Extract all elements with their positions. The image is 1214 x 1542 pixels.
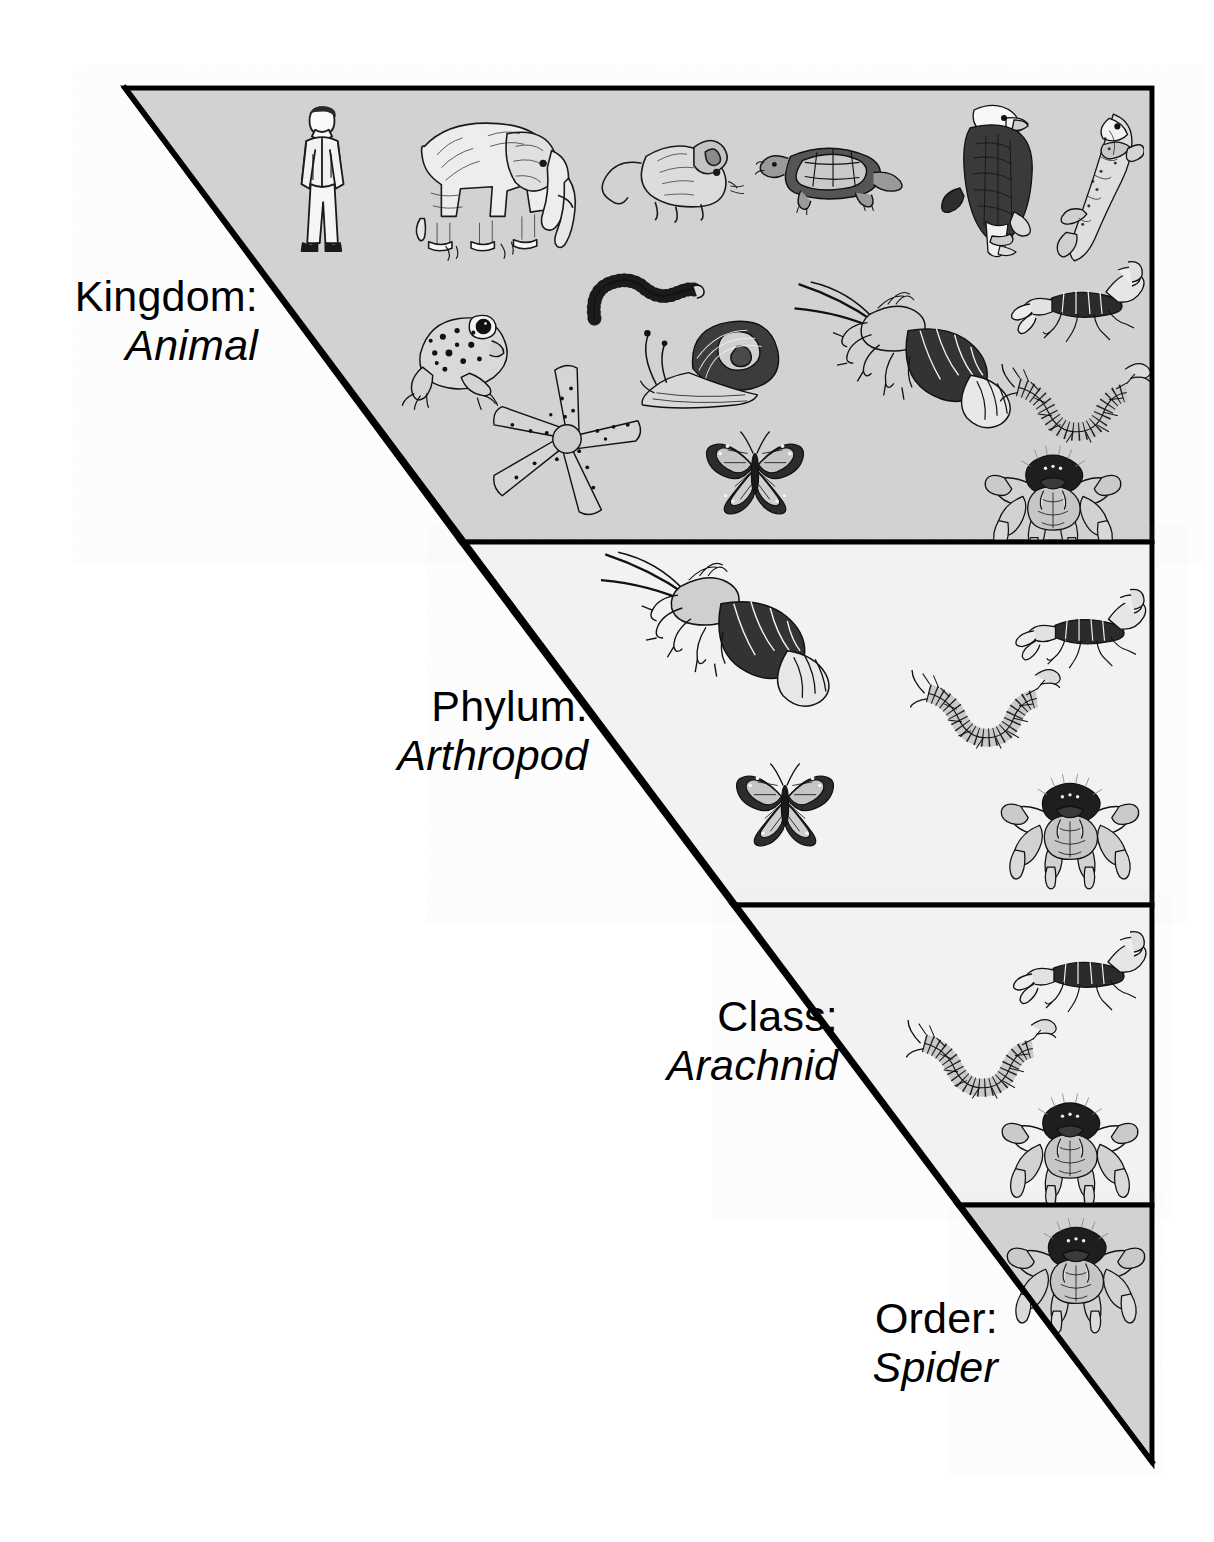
taxon-name-class: Arachnid	[600, 1041, 838, 1090]
taxonomy-triangle-svg	[0, 0, 1214, 1542]
label-kingdom: Kingdom: Animal	[10, 272, 258, 370]
label-phylum: Phylum: Arthropod	[330, 682, 588, 780]
label-order: Order: Spider	[740, 1294, 998, 1392]
rank-name-phylum: Phylum:	[330, 682, 588, 731]
label-class: Class: Arachnid	[600, 992, 838, 1090]
taxon-name-order: Spider	[740, 1343, 998, 1392]
taxon-name-kingdom: Animal	[10, 321, 258, 370]
rank-name-class: Class:	[600, 992, 838, 1041]
taxon-name-phylum: Arthropod	[330, 731, 588, 780]
rank-name-kingdom: Kingdom:	[10, 272, 258, 321]
band-kingdom	[125, 88, 1152, 559]
taxonomy-diagram: Kingdom: Animal Phylum: Arthropod Class:…	[0, 0, 1214, 1542]
rank-name-order: Order:	[740, 1294, 998, 1343]
